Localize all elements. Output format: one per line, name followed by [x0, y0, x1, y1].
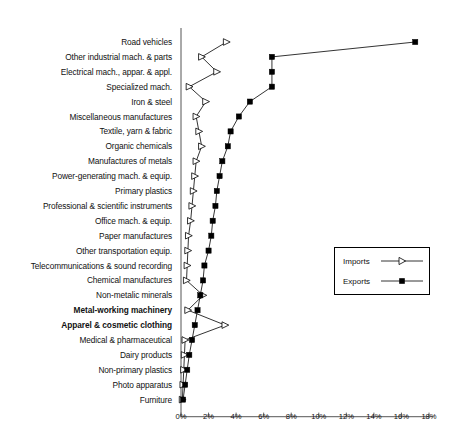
data-point-marker — [206, 248, 211, 253]
x-tick-label: 14% — [366, 412, 381, 421]
series-imports — [179, 39, 230, 403]
category-label: Power-generating mach. & equip. — [52, 172, 172, 181]
category-label: Non-primary plastics — [98, 365, 172, 374]
x-tick-label: 2% — [203, 412, 214, 421]
legend-item-exports: Exports — [343, 275, 425, 287]
data-point-marker — [269, 54, 274, 59]
data-point-marker — [192, 323, 197, 328]
category-label: Miscellaneous manufactures — [69, 112, 172, 121]
data-point-marker — [247, 99, 252, 104]
data-point-marker — [217, 174, 222, 179]
category-label: Iron & steel — [131, 97, 172, 106]
data-point-marker — [180, 397, 185, 402]
data-point-marker — [185, 367, 190, 372]
data-point-marker — [223, 39, 230, 46]
category-label: Primary plastics — [115, 187, 172, 196]
category-label: Office mach. & equip. — [95, 216, 172, 225]
series-plot — [181, 28, 445, 410]
category-label: Textile, yarn & fabric — [99, 127, 172, 136]
series-exports — [180, 39, 417, 402]
legend: Imports Exports — [334, 247, 430, 295]
plot-area — [181, 28, 445, 410]
data-point-marker — [210, 218, 215, 223]
data-point-marker — [199, 143, 206, 150]
x-tick-label: 10% — [311, 412, 326, 421]
data-point-marker — [193, 158, 200, 165]
category-axis-labels: Road vehiclesOther industrial mach. & pa… — [0, 0, 176, 410]
data-point-marker — [195, 308, 200, 313]
data-point-marker — [189, 337, 194, 342]
category-label: Non-metalic minerals — [96, 291, 172, 300]
category-label: Electrical mach., appar. & appl. — [61, 67, 172, 76]
category-label: Photo apparatus — [113, 380, 172, 389]
category-label: Furniture — [140, 395, 172, 404]
category-label: Other industrial mach. & parts — [65, 52, 172, 61]
data-point-marker — [413, 39, 418, 44]
legend-label-exports: Exports — [343, 277, 381, 286]
data-point-marker — [200, 278, 205, 283]
category-label: Dairy products — [120, 350, 172, 359]
x-tick-label: 4% — [231, 412, 242, 421]
data-point-marker — [214, 69, 221, 76]
data-point-marker — [225, 144, 230, 149]
data-point-marker — [182, 337, 189, 344]
data-point-marker — [209, 233, 214, 238]
data-point-marker — [198, 293, 203, 298]
data-point-marker — [202, 263, 207, 268]
category-label: Other transportation equip. — [76, 246, 172, 255]
category-label: Paper manufactures — [99, 231, 172, 240]
category-label: Road vehicles — [121, 38, 172, 47]
category-label: Manufactures of metals — [88, 157, 172, 166]
series-line — [183, 42, 415, 400]
data-point-marker — [203, 98, 210, 105]
category-label: Specialized mach. — [106, 82, 172, 91]
legend-marker-exports — [381, 276, 423, 286]
legend-item-imports: Imports — [343, 255, 425, 267]
legend-marker-imports — [381, 256, 423, 266]
x-tick-label: 16% — [394, 412, 409, 421]
category-label: Medical & pharmaceutical — [79, 336, 172, 345]
x-tick-label: 6% — [258, 412, 269, 421]
category-label: Metal-working machinery — [74, 306, 172, 315]
x-axis-tick-labels: 0%2%4%6%8%10%12%14%16%18% — [0, 412, 457, 432]
data-point-marker — [269, 69, 274, 74]
data-point-marker — [269, 84, 274, 89]
x-tick-label: 12% — [339, 412, 354, 421]
data-point-marker — [213, 203, 218, 208]
category-label: Organic chemicals — [105, 142, 172, 151]
data-point-marker — [187, 352, 192, 357]
x-tick-label: 0% — [176, 412, 187, 421]
data-point-marker — [183, 382, 188, 387]
data-point-marker — [228, 129, 233, 134]
imports-exports-chart: Road vehiclesOther industrial mach. & pa… — [0, 0, 457, 444]
data-point-marker — [236, 114, 241, 119]
x-tick-label: 8% — [286, 412, 297, 421]
category-label: Telecommunications & sound recording — [31, 261, 172, 270]
data-point-marker — [222, 322, 229, 329]
category-label: Chemical manufactures — [87, 276, 172, 285]
data-point-marker — [214, 188, 219, 193]
category-label: Apparel & cosmetic clothing — [61, 321, 172, 330]
category-label: Professional & scientific instruments — [43, 201, 172, 210]
legend-label-imports: Imports — [343, 257, 381, 266]
x-tick-label: 18% — [421, 412, 436, 421]
data-point-marker — [220, 159, 225, 164]
